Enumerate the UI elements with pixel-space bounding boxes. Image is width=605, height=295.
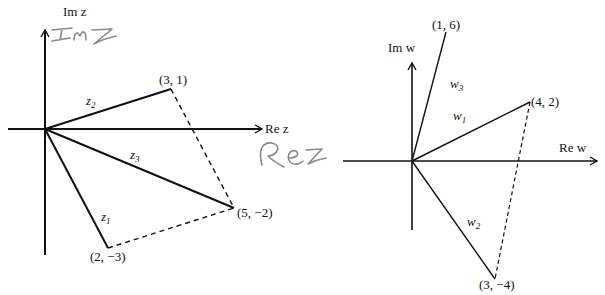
- vector-w1: [412, 102, 530, 161]
- point-label-w3: (1, 6): [432, 17, 460, 32]
- label-z1: z1: [100, 209, 111, 226]
- dashed-edge-z1-z3: [108, 208, 234, 248]
- left-y-axis-label: Im z: [63, 4, 87, 19]
- label-w2: w2: [467, 214, 481, 231]
- left-x-axis-label: Re z: [265, 121, 289, 136]
- point-label-w1: (4, 2): [531, 94, 559, 109]
- label-w1: w1: [453, 108, 466, 125]
- complex-plane-diagrams: Im z Re z z2 z3 z1: [0, 0, 605, 295]
- handwritten-rez: [260, 143, 326, 167]
- point-label-z1: (2, −3): [90, 249, 126, 264]
- point-label-z2: (3, 1): [159, 72, 187, 87]
- label-z3: z3: [129, 147, 140, 164]
- vector-w3: [412, 32, 446, 161]
- vector-w2: [412, 161, 495, 279]
- right-x-axis-label: Re w: [559, 140, 587, 155]
- point-label-z3: (5, −2): [237, 205, 273, 220]
- vector-z3: [45, 129, 234, 208]
- point-label-w2: (3, −4): [479, 277, 515, 292]
- dashed-edge-w1-w2: [495, 102, 530, 279]
- label-w3: w3: [450, 76, 464, 93]
- right-y-axis-label: Im w: [388, 40, 416, 55]
- vector-z1: [45, 129, 108, 248]
- dashed-edge-z2-z3: [171, 89, 234, 208]
- handwritten-imz: [52, 28, 116, 44]
- left-plot: Im z Re z z2 z3 z1: [8, 4, 326, 264]
- vector-z2: [45, 89, 171, 129]
- right-plot: Im w Re w w3 w1 w2 (1, 6) (4, 2) (3, −4): [343, 17, 597, 292]
- label-z2: z2: [85, 93, 96, 110]
